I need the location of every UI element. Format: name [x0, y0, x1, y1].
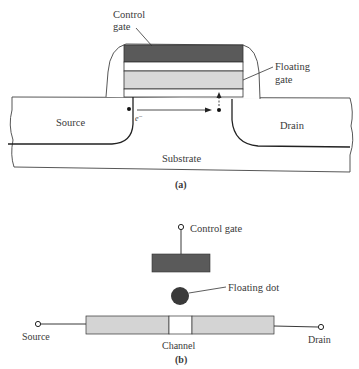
control-gate-label-1: Control [113, 9, 145, 20]
electron-dot-source [127, 107, 131, 111]
figure-b: Control gate Floating dot Source Channel… [22, 223, 331, 366]
floating-gate-label-2: gate [275, 74, 293, 85]
control-gate-terminal-icon [178, 224, 183, 229]
floating-gate-block [124, 71, 243, 89]
floating-gate-label-1: Floating [275, 61, 311, 72]
source-label-a: Source [56, 117, 85, 128]
caption-a: (a) [175, 179, 187, 191]
caption-b: (b) [175, 354, 187, 366]
control-gate-label-2: gate [113, 21, 131, 32]
tunnel-oxide [124, 89, 243, 97]
source-side-bar [86, 316, 169, 334]
flash-memory-diagram: Control gate Floating gate Source Drain … [0, 0, 359, 369]
channel-gap [169, 316, 192, 334]
floating-dot [171, 287, 189, 305]
drain-wire [274, 326, 318, 327]
interpoly-insulator [124, 62, 243, 71]
drain-label-b: Drain [308, 334, 331, 345]
electron-label: e⁻ [135, 114, 143, 123]
electron-dot-drain [217, 108, 221, 112]
drain-terminal-icon [318, 324, 323, 329]
control-gate-leader [136, 28, 152, 46]
source-label-b: Source [22, 331, 50, 342]
control-gate-block [124, 45, 243, 62]
control-gate-plate [152, 254, 210, 272]
drain-side-bar [192, 316, 274, 334]
source-terminal-icon [35, 321, 40, 326]
drain-label-a: Drain [280, 120, 305, 131]
substrate-label: Substrate [162, 153, 201, 164]
figure-a: Control gate Floating gate Source Drain … [8, 9, 353, 191]
control-gate-label-b: Control gate [190, 223, 243, 234]
channel-label: Channel [162, 340, 196, 351]
floating-dot-label: Floating dot [228, 282, 279, 293]
floating-dot-leader [189, 287, 226, 293]
